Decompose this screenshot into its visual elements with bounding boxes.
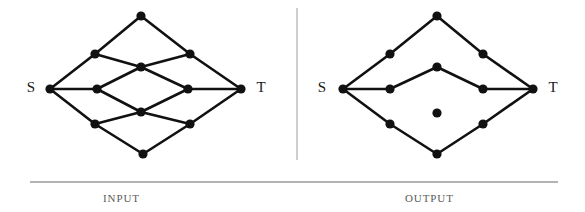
graph-edge bbox=[50, 89, 95, 124]
graph-node[interactable] bbox=[385, 84, 394, 93]
graph-node[interactable] bbox=[185, 49, 194, 58]
input-graph-nodes bbox=[45, 11, 245, 158]
source-node[interactable] bbox=[45, 84, 54, 93]
graph-node[interactable] bbox=[385, 119, 394, 128]
graph-node[interactable] bbox=[478, 49, 487, 58]
graph-edge bbox=[141, 67, 188, 89]
graph-node[interactable] bbox=[385, 49, 394, 58]
graph-node[interactable] bbox=[432, 62, 441, 71]
graph-edge bbox=[141, 112, 190, 124]
graph-edge bbox=[141, 16, 190, 54]
graph-edge bbox=[390, 67, 437, 89]
graph-edge bbox=[343, 54, 390, 89]
graph-edge bbox=[95, 54, 141, 67]
caption-output: OUTPUT bbox=[405, 192, 454, 204]
output-graph-edges bbox=[343, 16, 533, 154]
graph-edge bbox=[95, 16, 141, 54]
graph-edge bbox=[390, 124, 437, 154]
source-label: S bbox=[27, 79, 35, 95]
sink-node[interactable] bbox=[236, 84, 245, 93]
output-graph-nodes bbox=[338, 11, 537, 158]
graph-node[interactable] bbox=[478, 119, 487, 128]
input-graph: ST bbox=[27, 11, 266, 158]
graph-edge bbox=[50, 54, 95, 89]
graph-edge bbox=[483, 54, 533, 89]
input-graph-edges bbox=[50, 16, 241, 154]
graph-node[interactable] bbox=[183, 84, 192, 93]
sink-label: T bbox=[548, 79, 557, 95]
graph-node[interactable] bbox=[432, 149, 441, 158]
graph-edge bbox=[390, 16, 437, 54]
graph-edge bbox=[95, 124, 143, 154]
graph-edge bbox=[343, 89, 390, 124]
figure-canvas: STST bbox=[0, 0, 585, 212]
graph-edge bbox=[97, 89, 141, 112]
graph-node[interactable] bbox=[136, 11, 145, 20]
graph-node[interactable] bbox=[90, 49, 99, 58]
graph-edge bbox=[437, 124, 483, 154]
graph-node[interactable] bbox=[90, 119, 99, 128]
isolated-node[interactable] bbox=[432, 108, 441, 117]
graph-edge bbox=[95, 112, 141, 124]
graph-edge bbox=[141, 54, 190, 67]
sink-node[interactable] bbox=[528, 84, 537, 93]
graph-edge bbox=[483, 89, 533, 124]
source-node[interactable] bbox=[338, 84, 347, 93]
graph-edge bbox=[143, 124, 190, 154]
graph-node[interactable] bbox=[92, 84, 101, 93]
graph-node[interactable] bbox=[138, 149, 147, 158]
graph-edge bbox=[190, 89, 241, 124]
graph-node[interactable] bbox=[478, 84, 487, 93]
source-label: S bbox=[318, 79, 326, 95]
diagram-svg: STST bbox=[0, 0, 585, 212]
output-graph: ST bbox=[318, 11, 558, 158]
sink-label: T bbox=[256, 79, 265, 95]
graph-node[interactable] bbox=[185, 119, 194, 128]
graph-edge bbox=[437, 16, 483, 54]
graph-edge bbox=[190, 54, 241, 89]
graph-node[interactable] bbox=[136, 62, 145, 71]
graph-node[interactable] bbox=[136, 107, 145, 116]
caption-input: INPUT bbox=[103, 192, 140, 204]
graph-edge bbox=[141, 89, 188, 112]
graph-edge bbox=[437, 67, 483, 89]
graph-node[interactable] bbox=[432, 11, 441, 20]
graph-edge bbox=[97, 67, 141, 89]
